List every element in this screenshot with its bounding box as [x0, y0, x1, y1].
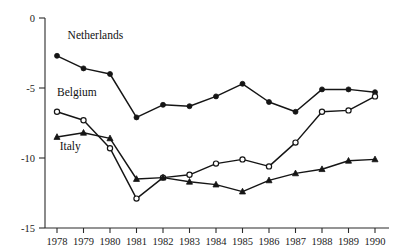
x-tick-label: 1983: [179, 236, 200, 247]
data-point-filled-circle: [240, 81, 245, 86]
data-point-filled-circle: [267, 100, 272, 105]
data-point-filled-circle: [293, 109, 298, 114]
data-point-filled-circle: [346, 87, 351, 92]
series-label-belgium: Belgium: [57, 86, 97, 99]
data-point-filled-circle: [55, 53, 60, 58]
data-point-open-circle: [213, 161, 218, 166]
data-point-open-circle: [240, 157, 245, 162]
x-tick-label: 1985: [232, 236, 253, 247]
y-axis-tick-labels: 0-5-10-15: [21, 13, 35, 234]
data-point-open-circle: [266, 164, 271, 169]
data-point-open-circle: [134, 196, 139, 201]
data-point-open-circle: [372, 94, 377, 99]
data-point-open-circle: [293, 140, 298, 145]
x-axis-tick-labels: 1978197919801981198219831984198519861987…: [47, 236, 386, 247]
data-point-open-circle: [107, 146, 112, 151]
data-point-open-circle: [187, 172, 192, 177]
data-point-filled-circle: [320, 87, 325, 92]
data-point-filled-circle: [81, 66, 86, 71]
y-tick-label: 0: [30, 13, 35, 24]
data-point-filled-circle: [161, 102, 166, 107]
data-point-filled-circle: [214, 94, 219, 99]
data-point-filled-circle: [134, 115, 139, 120]
x-tick-label: 1981: [126, 236, 147, 247]
line-chart: 0-5-10-15 197819791980198119821983198419…: [0, 0, 396, 252]
data-point-filled-circle: [187, 104, 192, 109]
x-tick-label: 1990: [365, 236, 386, 247]
data-point-filled-circle: [108, 72, 113, 77]
axes: [39, 18, 389, 233]
x-tick-label: 1978: [47, 236, 68, 247]
x-tick-label: 1989: [338, 236, 359, 247]
data-series: [54, 53, 378, 201]
x-tick-label: 1988: [312, 236, 333, 247]
chart-container: 0-5-10-15 197819791980198119821983198419…: [0, 0, 396, 252]
series-label-netherlands: Netherlands: [68, 29, 124, 41]
x-tick-label: 1987: [285, 236, 306, 247]
x-tick-label: 1982: [153, 236, 174, 247]
data-point-filled-triangle: [80, 130, 86, 136]
data-point-open-circle: [346, 108, 351, 113]
data-point-open-circle: [319, 109, 324, 114]
y-tick-label: -10: [21, 153, 35, 164]
y-tick-label: -15: [21, 223, 35, 234]
series-netherlands: [55, 53, 378, 120]
x-tick-label: 1980: [100, 236, 121, 247]
data-point-open-circle: [81, 118, 86, 123]
series-line: [57, 56, 375, 118]
x-tick-label: 1986: [259, 236, 280, 247]
x-tick-label: 1979: [73, 236, 94, 247]
data-point-open-circle: [54, 109, 59, 114]
x-tick-label: 1984: [206, 236, 228, 247]
y-tick-label: -5: [26, 83, 35, 94]
series-label-italy: Italy: [60, 140, 81, 153]
